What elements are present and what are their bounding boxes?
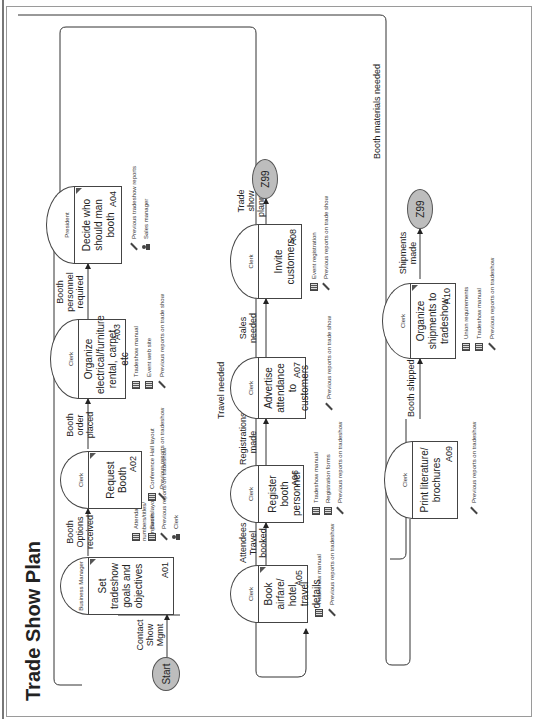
resource-a01-2: Booth layout (148, 496, 156, 541)
resource-a09-1: Previous reports on tradeshow (470, 422, 478, 515)
document-icon (132, 381, 140, 389)
flow-label-attendees-travel-booked: Attendees Travel booked (238, 523, 268, 563)
resource-a01-4: Clerk (172, 515, 180, 541)
wrench-icon (336, 507, 344, 515)
flow-label-booth-order: Booth order placed (65, 403, 95, 447)
wrench-icon (470, 507, 478, 515)
document-icon (312, 507, 320, 515)
resource-a10-2: Tradeshow manual (475, 288, 483, 351)
resource-a10-1: Union requirements (462, 287, 470, 351)
resource-a08-1: Event registration (310, 232, 318, 291)
document-icon (462, 343, 470, 351)
corner-marker-icon (90, 559, 96, 565)
flow-label-registrations-made: Registrations made (238, 419, 258, 465)
document-icon (145, 381, 153, 389)
wrench-icon (328, 609, 336, 617)
activity-a04[interactable]: President Decide who should man booth A0… (74, 186, 122, 264)
resource-a05-2: Previous reports on tradeshow (328, 524, 336, 617)
flow-label-travel-needed: Travel needed (216, 362, 226, 419)
trade-show-plan-diagram: Trade Show Plan (0, 0, 537, 719)
resource-a02-1: Conference Hall layout (148, 428, 156, 501)
resource-a06-3: Previous reports on tradeshow (336, 422, 344, 515)
activity-a10[interactable]: Clerk Organize shipments to tradeshow A1… (410, 283, 456, 359)
person-icon (172, 533, 180, 541)
flow-label-booth-shipped: Booth shipped (406, 361, 416, 417)
diagram-canvas: Trade Show Plan (0, 0, 537, 719)
person-icon (142, 243, 150, 251)
wrench-icon (322, 283, 330, 291)
activity-a08[interactable]: Clerk Invite customers A08 (258, 224, 302, 299)
document-icon (148, 493, 156, 501)
flow-label-shipments-made: Shipments made (398, 231, 418, 275)
wrench-icon (160, 533, 168, 541)
activity-a05[interactable]: Clerk Book airfare/ hotel, travel detail… (258, 565, 308, 623)
document-icon (310, 283, 318, 291)
flow-label-booth-materials-needed: Booth materials needed (372, 64, 382, 159)
activity-a01[interactable]: Business Manager Set tradeshow goals and… (88, 557, 174, 615)
activity-a02[interactable]: Clerk Request Booth A02 (88, 451, 142, 509)
wrench-icon (130, 243, 138, 251)
document-icon (315, 609, 323, 617)
document-icon (148, 533, 156, 541)
resource-a06-1: Tradeshow manual (312, 452, 320, 515)
document-icon (475, 343, 483, 351)
resource-a03-3: Previous reports on trade show (158, 294, 166, 389)
document-icon (324, 507, 332, 515)
activity-a03[interactable]: Clerk Organize electrical/furniture rent… (78, 319, 126, 399)
corner-marker-icon (90, 453, 96, 459)
activity-a09[interactable]: Clerk Print literature/ brochures A09 (412, 441, 458, 519)
resource-a03-1: Tradeshow manual (132, 326, 140, 389)
activity-a06[interactable]: Clerk Register booth personnel A06 (258, 465, 304, 523)
resource-a10-3: Previous reports on tradeshow (488, 258, 496, 351)
end-node-z99-1: Z99 (252, 159, 278, 199)
flow-label-booth-options: Booth Options received (65, 509, 95, 555)
resource-a04-1: Previous tradeshow reports (130, 166, 138, 251)
resource-a06-2: Registration forms (324, 454, 332, 515)
resource-a02-2: Previous reports on tradeshow (158, 408, 166, 501)
start-label: Start (161, 663, 172, 684)
resource-a05-1: Tradeshow manual (315, 554, 323, 617)
activity-a07[interactable]: Clerk Advertise attendance to customers … (258, 357, 306, 419)
end-node-z99-2: Z99 (407, 189, 433, 229)
start-node: Start (152, 657, 180, 691)
wrench-icon (488, 343, 496, 351)
flow-label-booth-personnel: Booth personnel required (55, 267, 85, 317)
resource-a03-2: Event web site (145, 338, 153, 389)
wrench-icon (158, 381, 166, 389)
resource-a08-2: Previous reports on trade show (322, 196, 330, 291)
flow-label-contact-show-mgmt: Contact Show Mgmt (135, 615, 165, 655)
role-cap: Business Manager (60, 557, 88, 615)
wrench-icon (325, 403, 333, 411)
resource-a07-1: Previous reports on trade show (325, 316, 333, 411)
document-icon (132, 533, 140, 541)
flow-label-sales-needed: Sales needed (238, 303, 258, 353)
resource-a04-2: Sales manager (142, 199, 150, 251)
wrench-icon (158, 493, 166, 501)
activity-box: Set tradeshow goals and objectives A01 (88, 557, 174, 615)
